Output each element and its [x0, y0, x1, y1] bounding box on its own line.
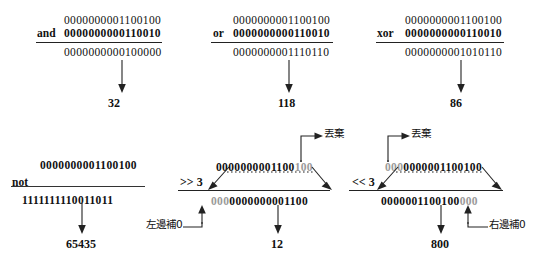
not-result-arrow-icon — [76, 203, 90, 235]
xor-result-arrow-icon — [455, 60, 469, 94]
shift-right-result-padded: 000 — [211, 195, 229, 207]
not-result-value: 65435 — [66, 238, 96, 251]
shift-left-result-value: 800 — [431, 238, 449, 251]
or-result-bits: 0000000001110110 — [233, 46, 329, 59]
shift-right-result-arrow-icon — [272, 205, 286, 235]
shift-right-discard-label: 丟棄 — [324, 127, 344, 140]
and-operand-a: 0000000001100100 — [64, 14, 161, 27]
or-divider-rule — [211, 42, 333, 43]
or-operator-label: or — [213, 27, 224, 40]
shift-right-pad-connector-icon — [183, 220, 207, 228]
or-operand-a: 0000000001100100 — [233, 14, 330, 27]
diagram-canvas: 0000000001100100 and 0000000000110010 00… — [0, 0, 546, 265]
xor-operator-label: xor — [377, 27, 394, 40]
shift-right-result-bits: 0000000000001100 — [211, 195, 308, 208]
not-operand-a: 0000000001100100 — [40, 159, 137, 172]
shift-right-operator-label: >> 3 — [180, 176, 203, 189]
xor-operand-b: 0000000000110010 — [405, 27, 502, 40]
shift-left-discard-connector-icon — [383, 131, 413, 163]
and-operand-b: 0000000000110010 — [64, 27, 161, 40]
shift-right-result-value: 12 — [271, 238, 283, 251]
and-result-value: 32 — [108, 97, 120, 110]
or-result-arrow-icon — [283, 60, 297, 94]
and-operator-label: and — [37, 27, 56, 40]
shift-left-operator-label: << 3 — [352, 176, 375, 189]
shift-left-pad-label: 右邊補0 — [489, 218, 526, 231]
shift-left-pad-connector-icon — [464, 220, 490, 228]
shift-left-discard-label: 丟棄 — [411, 127, 431, 140]
shift-left-result-arrow-icon — [435, 205, 449, 235]
xor-result-value: 86 — [450, 97, 462, 110]
or-operand-b: 0000000000110010 — [233, 27, 330, 40]
and-result-arrow-icon — [116, 60, 130, 94]
or-result-value: 118 — [278, 97, 295, 110]
xor-divider-rule — [376, 42, 504, 43]
xor-operand-a: 0000000001100100 — [405, 14, 502, 27]
shift-right-discard-connector-icon — [296, 131, 326, 163]
shift-right-pad-label: 左邊補0 — [146, 218, 183, 231]
xor-result-bits: 0000000001010110 — [405, 46, 502, 59]
not-result-bits: 1111111110011011 — [22, 194, 113, 207]
shift-right-movement-arrows-icon — [216, 164, 334, 192]
and-result-bits: 0000000000100000 — [64, 46, 162, 59]
shift-left-movement-arrows-icon — [385, 164, 505, 192]
and-divider-rule — [36, 42, 162, 43]
not-divider-rule — [11, 186, 145, 187]
shift-right-result-kept: 0000000001100 — [229, 195, 308, 207]
